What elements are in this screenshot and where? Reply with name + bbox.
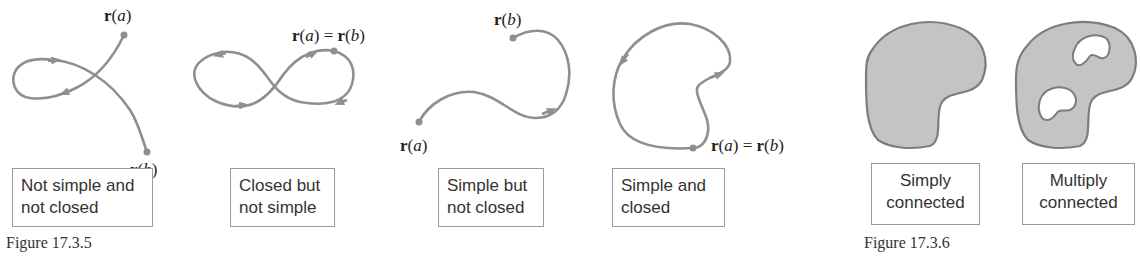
point-r-b [144,149,151,156]
panel-label-box: Simple but not closed [438,168,544,227]
point-r-a [121,32,128,39]
point-r-a [416,119,423,126]
label-line: connected [880,192,971,214]
region-simply-connected [866,22,986,148]
label-line: Closed but [239,175,326,197]
panel-label-box: Not simple and not closed [12,168,153,227]
label-line: Multiply [1031,170,1126,192]
label-line: Simple but [447,175,535,197]
label-line: not simple [239,197,326,219]
point-r-a-equals-r-b [690,145,697,152]
figure-caption: Figure 17.3.5 [6,234,92,252]
figure-caption: Figure 17.3.6 [864,234,950,252]
curve-simple-not-closed [419,31,569,122]
label-line: not closed [21,197,144,219]
curve-closed-not-simple [194,50,353,106]
point-r-a-equals-r-b [331,48,338,55]
label-r-a: r(a) [104,6,131,26]
label-line: Simple and [621,175,716,197]
curve-simple-closed [613,23,730,148]
curve-not-simple-not-closed [13,35,147,152]
label-r-a: r(a) [400,136,427,156]
label-line: connected [1031,192,1126,214]
label-line: Not simple and [21,175,144,197]
label-r-a-equals-r-b: r(a) = r(b) [292,26,365,46]
panel-label-box: Multiply connected [1022,163,1135,225]
label-r-a-equals-r-b: r(a) = r(b) [711,136,784,156]
panel-label-box: Simple and closed [612,168,725,227]
label-line: Simply [880,170,971,192]
label-r-b: r(b) [494,10,521,30]
panel-label-box: Simply connected [871,163,980,225]
label-line: closed [621,197,716,219]
region-multiply-connected [1016,22,1136,148]
point-r-b [510,35,517,42]
panel-label-box: Closed but not simple [230,168,335,227]
label-line: not closed [447,197,535,219]
